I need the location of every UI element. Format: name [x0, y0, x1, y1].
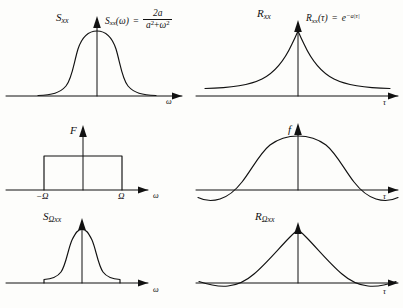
axis-label-top-left: ω	[166, 98, 172, 106]
panel-bottom-left	[6, 218, 148, 287]
function-label-top-left: Sxx	[56, 12, 69, 25]
axis-label-bottom-left: ω	[153, 286, 159, 294]
axis-y-arrow-top-right	[294, 20, 302, 32]
axis-y-arrow-top-left	[93, 16, 101, 28]
axis-label-middle-right: τ	[383, 193, 386, 201]
panel-middle-left	[6, 125, 148, 194]
figure-canvas	[0, 0, 403, 308]
function-label-bottom-left: SΩxx	[43, 211, 61, 224]
function-label-bottom-right: RΩxx	[255, 211, 274, 224]
panel-bottom-right	[196, 222, 398, 287]
axis-label-top-right: τ	[383, 99, 386, 107]
axis-x-arrow-middle-right	[388, 187, 398, 194]
function-label-top-right: Rxx	[257, 8, 271, 21]
axis-x-arrow-top-left	[172, 93, 182, 100]
axis-y-arrow-bottom-left	[78, 218, 86, 230]
axis-x-arrow-middle-left	[138, 187, 148, 194]
axis-y-arrow-middle-right	[294, 123, 302, 135]
axis-label-middle-left: ω	[153, 192, 159, 200]
axis-x-arrow-bottom-left	[138, 280, 148, 287]
panel-top-right	[196, 20, 398, 100]
function-label-middle-right: f	[288, 124, 291, 135]
equation-top-left: Sxx(ω) = 2a a2+ω2	[105, 9, 172, 30]
equation-top-right: Rxx(τ) = e−a|τ|	[306, 13, 360, 25]
panel-middle-right	[196, 123, 398, 200]
function-label-middle-left: F	[70, 125, 77, 136]
axis-x-arrow-top-right	[388, 93, 398, 100]
axis-label-bottom-right: τ	[383, 288, 386, 296]
tick-label-minus-omega: −Ω	[36, 192, 49, 201]
axis-y-arrow-middle-left	[79, 125, 87, 137]
tick-label-omega: Ω	[118, 192, 125, 201]
